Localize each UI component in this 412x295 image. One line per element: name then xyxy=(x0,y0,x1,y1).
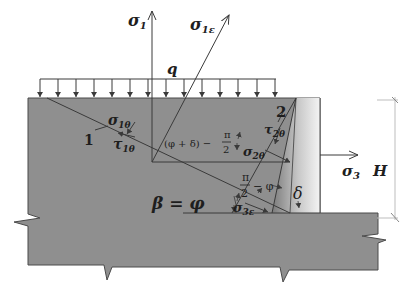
pi-over-2-b-numerator: π xyxy=(242,171,249,184)
q-label: q xyxy=(167,60,178,78)
earth-pressure-diagram: σ1 σ1ε q σ1θ τ1θ 1 (φ + δ) − π 2 2 τ2θ σ… xyxy=(0,0,412,295)
pi-over-2-b-denominator: 2 xyxy=(241,187,248,200)
sigma1-label: σ1 xyxy=(128,11,147,31)
line-2-label: 2 xyxy=(276,103,286,121)
surcharge-load xyxy=(40,79,276,97)
H-label: H xyxy=(372,162,388,180)
height-dimension xyxy=(377,97,399,222)
sigma3-label: σ3 xyxy=(342,162,360,181)
delta-label: δ xyxy=(293,184,303,203)
sigma1e-label: σ1ε xyxy=(190,15,215,35)
beta-equals-phi-label: β = φ xyxy=(151,193,205,213)
minus-phi-label: − φ xyxy=(253,180,274,193)
pi-over-2-a-numerator: π xyxy=(224,129,231,140)
pi-over-2-a-denominator: 2 xyxy=(223,144,229,155)
line-1-label: 1 xyxy=(84,132,94,148)
phi-plus-delta-label: (φ + δ) − xyxy=(164,138,211,149)
soil-block xyxy=(14,98,386,282)
